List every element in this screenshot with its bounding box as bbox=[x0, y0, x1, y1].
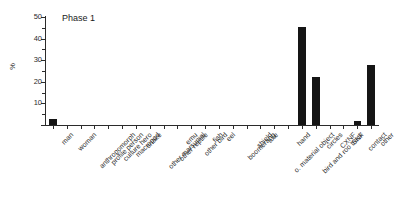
x-tick-mark bbox=[316, 125, 317, 129]
y-tick-label: 40 bbox=[34, 34, 42, 43]
y-tick-label: 20 bbox=[34, 77, 42, 86]
x-tick-mark bbox=[302, 125, 303, 129]
bar bbox=[49, 119, 57, 125]
x-tick-mark bbox=[67, 125, 68, 129]
bar bbox=[367, 65, 375, 125]
x-tick-mark bbox=[136, 125, 137, 129]
x-tick-mark bbox=[108, 125, 109, 129]
y-tick-mark bbox=[41, 125, 46, 126]
x-tick-mark bbox=[288, 125, 289, 129]
bar bbox=[312, 77, 320, 125]
x-tick-label: hand bbox=[296, 131, 313, 148]
x-tick-mark bbox=[94, 125, 95, 129]
x-tick-mark bbox=[205, 125, 206, 129]
x-tick-mark bbox=[177, 125, 178, 129]
x-tick-mark bbox=[122, 125, 123, 129]
bar bbox=[354, 121, 362, 125]
y-tick-label: 50 bbox=[34, 12, 42, 21]
x-tick-mark bbox=[247, 125, 248, 129]
x-tick-label: man bbox=[60, 131, 75, 146]
x-tick-mark bbox=[164, 125, 165, 129]
x-tick-mark bbox=[150, 125, 151, 129]
x-tick-mark bbox=[274, 125, 275, 129]
x-tick-mark bbox=[233, 125, 234, 129]
x-tick-mark bbox=[81, 125, 82, 129]
x-tick-mark bbox=[191, 125, 192, 129]
y-tick-label: 10 bbox=[34, 98, 42, 107]
x-tick-label: woman bbox=[76, 131, 98, 153]
x-tick-mark bbox=[53, 125, 54, 129]
plot-area bbox=[46, 17, 378, 125]
y-tick-label: 30 bbox=[34, 55, 42, 64]
x-tick-mark bbox=[343, 125, 344, 129]
y-axis-title: % bbox=[8, 63, 17, 70]
x-tick-mark bbox=[260, 125, 261, 129]
x-tick-mark bbox=[330, 125, 331, 129]
x-axis-line bbox=[45, 125, 379, 126]
x-tick-mark bbox=[219, 125, 220, 129]
bar bbox=[298, 27, 306, 125]
x-tick-mark bbox=[357, 125, 358, 129]
x-tick-mark bbox=[371, 125, 372, 129]
